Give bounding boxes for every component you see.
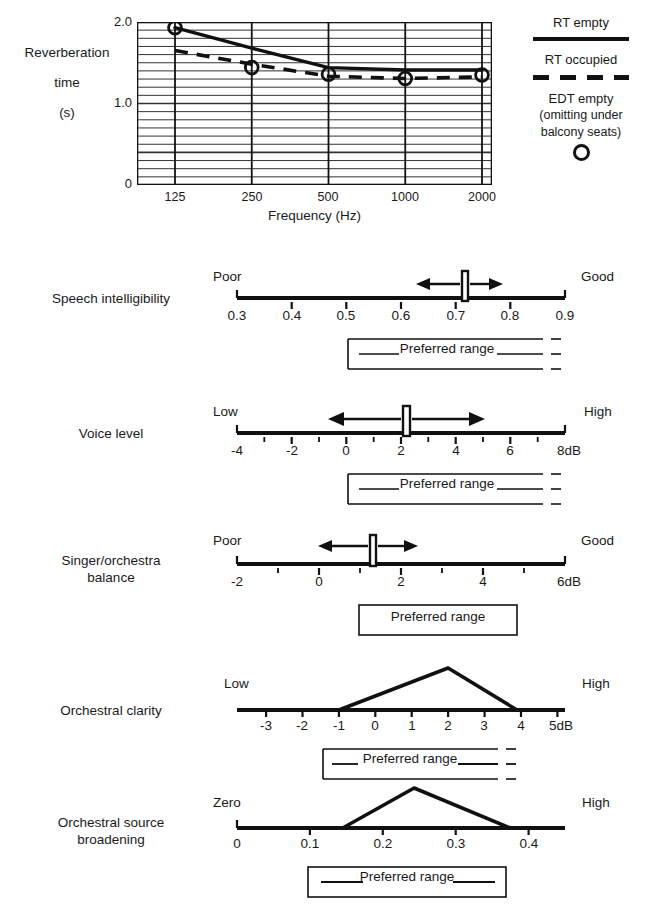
tick-label-voice-0: -4	[214, 443, 260, 458]
tick-label-voice-5: 6	[487, 443, 533, 458]
preferred-range-box-voice: Preferred range	[347, 473, 562, 503]
tick-label-broadening-4: 0.4	[506, 836, 552, 851]
legend-swatch-dashed-line	[533, 75, 629, 80]
rt-xtick-1000: 1000	[379, 190, 431, 204]
scale-label-orchestral-source-broadening: Orchestral source broadening	[6, 814, 216, 848]
scale-label-broadening-line2: broadening	[6, 831, 216, 848]
legend-label-edt-sub1: (omitting under	[506, 107, 656, 124]
tick-label-speech-0: 0.3	[214, 308, 260, 323]
scale-label-voice-level: Voice level	[6, 425, 216, 442]
legend-label-edt-empty: EDT empty	[506, 90, 656, 107]
value-marker-balance	[370, 535, 376, 566]
tick-label-speech-6: 0.9	[542, 308, 588, 323]
preferred-range-text-clarity: Preferred range	[363, 751, 458, 766]
scale-row-voice-level: Voice level Low High	[0, 397, 659, 507]
preferred-range-box-balance: Preferred range	[358, 604, 518, 634]
rt-xtick-250: 250	[226, 190, 278, 204]
scale-label-broadening-line1: Orchestral source	[6, 814, 216, 831]
scale-label-singer-orchestra-balance: Singer/orchestra balance	[6, 552, 216, 586]
rt-xtick-2000: 2000	[456, 190, 508, 204]
preferred-range-triangle-clarity	[339, 668, 517, 710]
scale-row-speech-intelligibility: Speech intelligibility Poor Good	[0, 262, 659, 372]
value-marker-speech	[462, 271, 468, 301]
scale-axis-broadening	[215, 778, 575, 840]
rt-xtick-125: 125	[149, 190, 201, 204]
rt-y-axis-label-line1: Reverberation	[8, 38, 126, 68]
rt-y-axis-label: Reverberation time (s)	[8, 38, 126, 128]
rt-plot-svg	[137, 22, 492, 185]
value-marker-voice	[403, 406, 410, 436]
rt-ytick-1: 1.0	[92, 95, 132, 110]
scale-row-orchestral-source-broadening: Orchestral source broadening Zero High 0…	[0, 790, 659, 908]
scale-axis-balance	[215, 532, 575, 580]
scale-label-balance-line1: Singer/orchestra	[6, 552, 216, 569]
chart-legend: RT empty RT occupied EDT empty (omitting…	[506, 14, 656, 161]
legend-swatch-solid-line	[533, 37, 629, 41]
preferred-range-arrow-balance	[318, 540, 418, 552]
scale-axis-speech	[215, 266, 575, 314]
scale-axis-voice	[215, 401, 575, 449]
tick-label-balance-1: 0	[296, 574, 342, 589]
preferred-range-triangle-broadening	[343, 788, 511, 828]
tick-label-speech-3: 0.6	[378, 308, 424, 323]
scale-endcap-right-balance: Good	[581, 533, 614, 548]
preferred-range-arrow-speech	[416, 278, 503, 290]
legend-label-rt-empty: RT empty	[506, 14, 656, 31]
tick-label-broadening-2: 0.2	[360, 836, 406, 851]
scale-row-orchestral-clarity: Orchestral clarity Low High	[0, 660, 659, 778]
preferred-range-box-clarity: Preferred range	[322, 748, 522, 778]
tick-label-speech-2: 0.5	[323, 308, 369, 323]
preferred-range-box-broadening: Preferred range	[307, 866, 507, 896]
rt-gridlines-horizontal	[137, 30, 492, 177]
tick-label-voice-6: 8dB	[546, 443, 592, 458]
tick-label-voice-1: -2	[269, 443, 315, 458]
rt-y-axis-label-line2: time	[8, 68, 126, 98]
tick-label-broadening-0: 0	[214, 836, 260, 851]
preferred-range-text-balance: Preferred range	[391, 609, 486, 624]
tick-label-speech-1: 0.4	[269, 308, 315, 323]
rt-x-axis-label: Frequency (Hz)	[137, 208, 492, 223]
scale-label-orchestral-clarity: Orchestral clarity	[6, 702, 216, 719]
tick-label-balance-2: 2	[378, 574, 424, 589]
tick-label-speech-4: 0.7	[433, 308, 479, 323]
legend-label-rt-occupied: RT occupied	[506, 51, 656, 68]
tick-label-clarity-8: 5dB	[538, 718, 584, 733]
scale-endcap-right-voice: High	[584, 404, 612, 419]
preferred-range-text-broadening: Preferred range	[360, 869, 455, 884]
rt-ytick-2: 2.0	[92, 14, 132, 29]
scale-label-speech-intelligibility: Speech intelligibility	[6, 290, 216, 307]
scale-label-balance-line2: balance	[6, 569, 216, 586]
tick-label-voice-2: 0	[323, 443, 369, 458]
rt-plot-area	[137, 22, 492, 185]
scale-row-singer-orchestra-balance: Singer/orchestra balance Poor Good	[0, 532, 659, 642]
preferred-range-box-speech: Preferred range	[347, 338, 562, 368]
tick-label-balance-3: 4	[460, 574, 506, 589]
preferred-range-text-speech: Preferred range	[400, 341, 495, 356]
legend-label-edt-sub2: balcony seats)	[506, 124, 656, 141]
tick-label-voice-4: 4	[433, 443, 479, 458]
tick-label-voice-3: 2	[378, 443, 424, 458]
scale-endcap-right-clarity: High	[582, 676, 610, 691]
scale-endcap-right-speech: Good	[581, 269, 614, 284]
tick-label-balance-4: 6dB	[546, 574, 592, 589]
tick-label-broadening-1: 0.1	[287, 836, 333, 851]
reverberation-time-chart: Reverberation time (s) 2.0 1.0 0	[0, 0, 659, 232]
scale-axis-clarity	[215, 660, 575, 722]
legend-swatch-circle-marker	[573, 144, 590, 161]
rt-ytick-0: 0	[92, 176, 132, 191]
preferred-range-text-voice: Preferred range	[400, 476, 495, 491]
figure-acoustic-parameters: Reverberation time (s) 2.0 1.0 0	[0, 0, 659, 908]
tick-label-broadening-3: 0.3	[433, 836, 479, 851]
scale-endcap-right-broadening: High	[582, 795, 610, 810]
tick-label-speech-5: 0.8	[487, 308, 533, 323]
rt-xtick-500: 500	[302, 190, 354, 204]
tick-label-balance-0: -2	[214, 574, 260, 589]
